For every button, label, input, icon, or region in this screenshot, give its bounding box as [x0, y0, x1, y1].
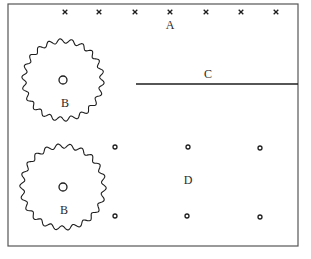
diagram-canvas: A BB C D	[0, 0, 311, 259]
x-mark-icon	[63, 10, 68, 15]
small-ring-icon	[186, 145, 190, 149]
x-mark-icon	[274, 10, 279, 15]
x-mark-icon	[168, 10, 173, 15]
x-mark-icon	[239, 10, 244, 15]
x-mark-icon	[97, 10, 102, 15]
region-b-label: B	[61, 96, 69, 110]
region-a-markers	[63, 10, 279, 15]
small-ring-icon	[113, 145, 117, 149]
region-b-circles: BB	[20, 39, 106, 230]
small-ring-icon	[113, 214, 117, 218]
small-ring-icon	[258, 215, 262, 219]
region-a-label: A	[166, 18, 175, 32]
diagram-frame	[8, 4, 298, 246]
small-ring-icon	[258, 146, 262, 150]
x-mark-icon	[133, 10, 138, 15]
center-ring-icon	[59, 183, 67, 191]
region-d-label: D	[184, 173, 193, 187]
small-ring-icon	[185, 214, 189, 218]
x-mark-icon	[204, 10, 209, 15]
wavy-circle-b: B	[22, 39, 104, 121]
region-b-label: B	[60, 203, 68, 217]
region-c-label: C	[204, 67, 212, 81]
wavy-circle-b: B	[20, 144, 106, 230]
center-ring-icon	[59, 76, 67, 84]
